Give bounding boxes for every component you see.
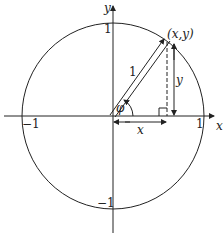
right-angle-marker bbox=[159, 108, 167, 116]
y-segment-label: y bbox=[175, 73, 183, 87]
tick-x-pos: 1 bbox=[196, 117, 204, 131]
tick-x-neg: −1 bbox=[22, 117, 40, 131]
unit-circle-diagram: y x 1 −1 1 −1 (x,y) 1 φ x y bbox=[0, 0, 224, 235]
x-segment-label: x bbox=[137, 123, 144, 137]
angle-label: φ bbox=[116, 101, 125, 115]
y-axis-label: y bbox=[103, 1, 111, 15]
radius-label: 1 bbox=[129, 65, 137, 79]
tick-y-pos: 1 bbox=[104, 22, 112, 36]
point-label: (x,y) bbox=[167, 27, 194, 41]
x-axis-label: x bbox=[216, 119, 223, 133]
tick-y-neg: −1 bbox=[97, 196, 115, 210]
